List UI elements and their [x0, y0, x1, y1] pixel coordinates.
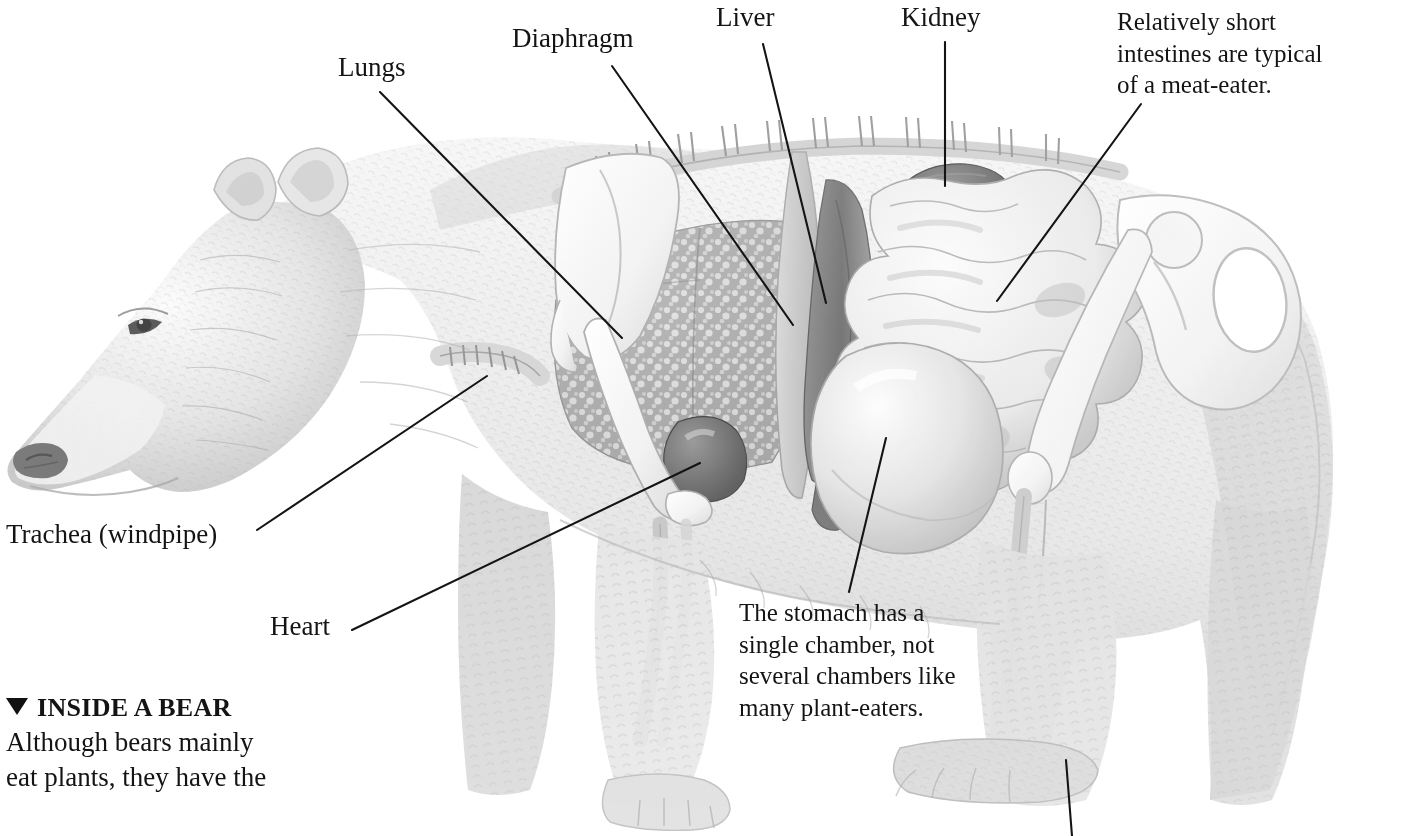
label-trachea: Trachea (windpipe): [6, 521, 217, 548]
triangle-up-icon: [6, 698, 28, 715]
note-intestines: Relatively short intestines are typical …: [1117, 6, 1417, 101]
caption-body-line-1: Although bears mainly: [6, 725, 426, 760]
caption-body-line-2: eat plants, they have the: [6, 760, 426, 795]
label-lungs: Lungs: [338, 54, 406, 81]
caption-block: INSIDE A BEAR Although bears mainly eat …: [6, 690, 426, 795]
illustration-canvas: Lungs Diaphragm Liver Kidney Trachea (wi…: [0, 0, 1421, 836]
note-stomach-line-1: The stomach has a: [739, 597, 1007, 629]
far-forelimb: [458, 474, 555, 795]
note-stomach-line-4: many plant-eaters.: [739, 692, 1007, 724]
label-kidney: Kidney: [901, 4, 980, 31]
note-intestines-line-2: intestines are typical: [1117, 38, 1417, 70]
note-intestines-line-3: of a meat-eater.: [1117, 69, 1417, 101]
stomach: [811, 343, 1003, 554]
label-diaphragm: Diaphragm: [512, 25, 633, 52]
caption-heading-row: INSIDE A BEAR: [6, 690, 426, 725]
label-heart: Heart: [270, 613, 330, 640]
label-liver: Liver: [716, 4, 774, 31]
note-intestines-line-1: Relatively short: [1117, 6, 1417, 38]
note-stomach: The stomach has a single chamber, not se…: [739, 597, 1007, 723]
caption-heading: INSIDE A BEAR: [37, 693, 232, 722]
note-stomach-line-3: several chambers like: [739, 660, 1007, 692]
note-stomach-line-2: single chamber, not: [739, 629, 1007, 661]
